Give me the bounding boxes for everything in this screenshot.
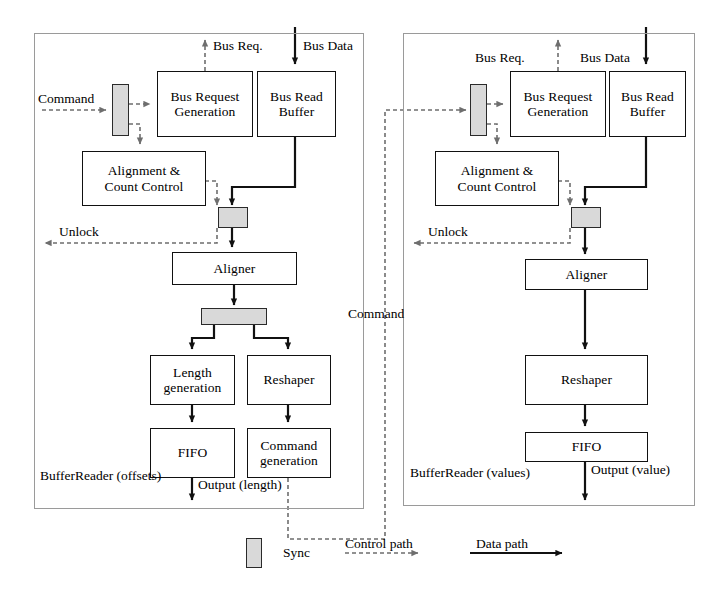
left-lengen-line1: Length	[164, 365, 222, 380]
left-block-fifo: FIFO	[150, 428, 235, 478]
right-sync-command	[470, 84, 487, 136]
left-brg-line2: Generation	[171, 104, 240, 119]
left-cmdgen-line1: Command	[260, 438, 318, 453]
left-acc-line1: Alignment &	[105, 163, 184, 178]
left-block-aligner: Aligner	[172, 252, 297, 285]
legend-data-path-label: Data path	[476, 536, 528, 551]
left-sync-aligner-input	[218, 207, 248, 228]
left-panel-name-line1: BufferReader	[40, 468, 113, 483]
left-panel-name: BufferReader (offsets)	[40, 468, 161, 483]
right-sync-aligner-input	[571, 207, 601, 228]
right-brb-line2: Buffer	[621, 104, 674, 119]
right-aligner-label: Aligner	[566, 267, 608, 282]
right-output-line1: Output	[591, 462, 629, 477]
left-panel-name-line2: (offsets)	[117, 468, 162, 483]
right-block-aligner: Aligner	[525, 259, 648, 290]
left-block-command-generation: Command generation	[247, 428, 331, 478]
left-label-bus-data: Bus Data	[303, 38, 353, 53]
right-label-bus-req: Bus Req.	[475, 50, 525, 65]
left-reshaper-label: Reshaper	[263, 372, 314, 387]
right-panel-name: BufferReader (values)	[410, 465, 530, 480]
legend-sync-label: Sync	[283, 545, 310, 560]
left-fifo-label: FIFO	[178, 445, 208, 460]
right-brg-line2: Generation	[524, 104, 593, 119]
right-panel-name-line1: BufferReader	[410, 465, 483, 480]
left-aligner-label: Aligner	[214, 261, 256, 276]
right-block-bus-read-buffer: Bus Read Buffer	[609, 71, 686, 137]
left-block-bus-read-buffer: Bus Read Buffer	[257, 71, 336, 137]
right-output-line2: (value)	[632, 462, 670, 477]
left-brb-line2: Buffer	[270, 104, 323, 119]
right-panel-name-line2: (values)	[487, 465, 530, 480]
diagram-canvas: Bus Req. Bus Data Command Unlock Bus Req…	[0, 0, 727, 596]
right-acc-line1: Alignment &	[458, 163, 537, 178]
right-brg-line1: Bus Request	[524, 89, 593, 104]
right-acc-line2: Count Control	[458, 179, 537, 194]
left-lengen-line2: generation	[164, 380, 222, 395]
right-block-alignment-count-control: Alignment & Count Control	[435, 151, 559, 206]
left-block-reshaper: Reshaper	[247, 355, 331, 405]
right-label-unlock: Unlock	[428, 224, 468, 239]
interconnect-command-label: Command	[348, 306, 404, 321]
right-block-bus-request-generation: Bus Request Generation	[510, 71, 606, 137]
left-label-unlock: Unlock	[59, 224, 99, 239]
right-block-fifo: FIFO	[525, 432, 648, 462]
left-block-alignment-count-control: Alignment & Count Control	[82, 151, 206, 206]
left-brb-line1: Bus Read	[270, 89, 323, 104]
left-block-length-generation: Length generation	[150, 355, 235, 405]
left-sync-command	[112, 84, 129, 136]
left-block-bus-request-generation: Bus Request Generation	[157, 71, 253, 137]
left-label-command: Command	[38, 91, 94, 106]
left-cmdgen-line2: generation	[260, 453, 318, 468]
right-fifo-label: FIFO	[572, 439, 602, 454]
right-label-output: Output (value)	[591, 462, 670, 477]
right-brb-line1: Bus Read	[621, 89, 674, 104]
legend-sync-swatch	[246, 538, 262, 568]
right-reshaper-label: Reshaper	[561, 372, 612, 387]
left-label-bus-req: Bus Req.	[213, 38, 263, 53]
legend-control-path-label: Control path	[345, 536, 413, 551]
left-brg-line1: Bus Request	[171, 89, 240, 104]
right-label-bus-data: Bus Data	[580, 50, 630, 65]
left-label-output: Output (length)	[198, 477, 282, 492]
left-output-line1: Output	[198, 477, 236, 492]
left-output-line2: (length)	[239, 477, 282, 492]
right-block-reshaper: Reshaper	[525, 355, 648, 405]
left-acc-line2: Count Control	[105, 179, 184, 194]
left-sync-splitter	[201, 308, 267, 325]
